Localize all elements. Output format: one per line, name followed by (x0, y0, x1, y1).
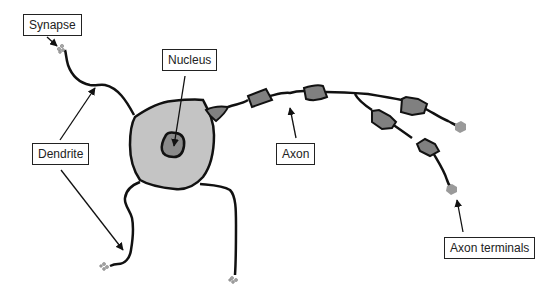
myelin-sheath-2 (304, 85, 327, 100)
myelin-sheath-1 (248, 89, 272, 107)
arrow-axon (290, 108, 296, 138)
synapse-vesicles-bottom-left (100, 263, 109, 271)
label-axon: Axon (276, 143, 315, 165)
dendrite-bottom-right (200, 184, 236, 275)
arrow-synapse (47, 37, 57, 46)
label-axon-terminals: Axon terminals (444, 237, 535, 259)
label-dendrite: Dendrite (32, 143, 89, 165)
dendrite-bottom-left (110, 182, 140, 266)
label-nucleus: Nucleus (162, 49, 217, 71)
synapse-vesicles-top (57, 44, 64, 53)
myelin-sheath-3 (401, 97, 427, 115)
axon-terminal-2 (446, 184, 457, 195)
nucleus (162, 132, 184, 157)
dendrite-top (65, 50, 134, 115)
arrow-dendrite-down (61, 170, 123, 250)
label-synapse: Synapse (23, 14, 82, 36)
axon-terminal-1 (455, 121, 466, 133)
arrow-axon-terminals (457, 200, 463, 232)
myelin-sheath-4 (372, 110, 396, 129)
synapse-vesicles-bottom-right (229, 277, 238, 284)
myelin-sheath-5 (417, 139, 439, 156)
arrow-dendrite-up (60, 88, 95, 140)
